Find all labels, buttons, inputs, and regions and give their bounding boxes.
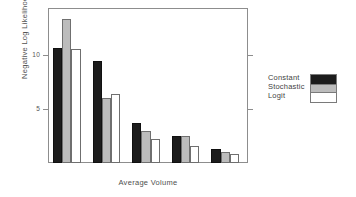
bar-constant-4	[172, 136, 181, 163]
legend-swatch-constant	[311, 75, 336, 84]
plot-area	[49, 9, 247, 163]
legend-swatch-logit	[311, 93, 336, 102]
bar-group	[93, 9, 121, 163]
y-tick-mark-right	[248, 109, 253, 110]
bar-stochastic-5	[221, 152, 230, 163]
bar-logit-2	[111, 94, 120, 163]
bar-stochastic-4	[181, 136, 190, 163]
bar-group	[132, 9, 160, 163]
legend-swatch-list	[310, 74, 337, 103]
bar-group	[172, 9, 200, 163]
y-tick-label: 5	[22, 105, 40, 112]
bar-constant-2	[93, 61, 102, 163]
bar-constant-3	[132, 123, 141, 163]
x-axis-label: Average Volume	[48, 178, 248, 187]
chart-figure: 510 Average Volume Negative Log Likeliho…	[0, 0, 356, 197]
bar-logit-4	[190, 146, 199, 163]
bar-logit-1	[71, 49, 80, 163]
bar-group	[53, 9, 81, 163]
legend-label-logit: Logit	[268, 91, 305, 100]
legend-label-stochastic: Stochastic	[268, 82, 305, 91]
bar-group	[211, 9, 239, 163]
y-axis-label: Negative Log Likelihood	[20, 0, 29, 106]
y-tick-mark	[43, 109, 48, 110]
chart-legend: ConstantStochasticLogit	[268, 73, 337, 103]
bar-constant-5	[211, 149, 220, 163]
bar-stochastic-2	[102, 98, 111, 163]
bar-constant-1	[53, 48, 62, 163]
bar-logit-5	[230, 154, 239, 163]
legend-swatch-stochastic	[311, 84, 336, 93]
legend-label-list: ConstantStochasticLogit	[268, 73, 305, 100]
bar-stochastic-3	[141, 131, 150, 163]
y-tick-mark	[43, 55, 48, 56]
legend-label-constant: Constant	[268, 73, 305, 82]
bar-logit-3	[151, 139, 160, 163]
y-tick-mark-right	[248, 55, 253, 56]
bar-stochastic-1	[62, 19, 71, 163]
